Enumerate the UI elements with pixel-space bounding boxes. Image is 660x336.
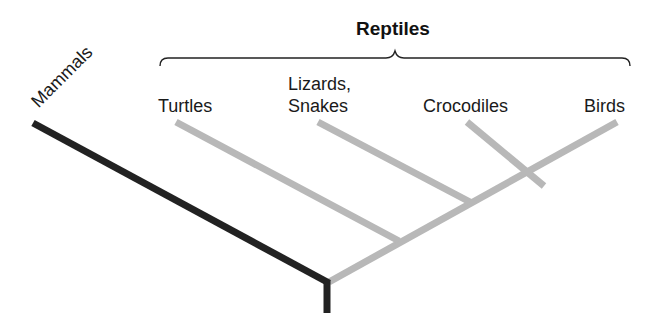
taxon-label-birds: Birds (584, 96, 625, 117)
mammals-branch (33, 123, 329, 283)
cladogram (0, 0, 660, 336)
reptiles-brace (160, 51, 630, 66)
lizards-snakes-branch (318, 122, 470, 202)
taxon-label-snakes: Snakes (288, 96, 348, 117)
crocodiles-branch (467, 122, 544, 186)
birds-branch (329, 122, 617, 282)
taxon-label-crocodiles: Crocodiles (423, 96, 508, 117)
taxon-label-lizards: Lizards, (288, 74, 351, 95)
group-label-reptiles: Reptiles (356, 18, 430, 40)
taxon-label-turtles: Turtles (158, 96, 212, 117)
turtles-branch (176, 122, 399, 241)
